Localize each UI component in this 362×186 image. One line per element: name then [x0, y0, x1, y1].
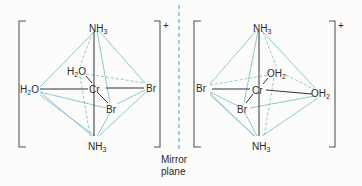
charge-right: +: [338, 20, 344, 31]
right-center-metal: Cr: [252, 85, 263, 96]
left-back-ligand: H2O: [67, 66, 86, 78]
left-front-ligand: Br: [106, 104, 117, 115]
charge-left: +: [163, 20, 169, 31]
right-left-ligand: Br: [196, 83, 207, 94]
mirror-label-line2: plane: [161, 166, 186, 177]
right-bracket-close: [329, 21, 335, 147]
mirror-label-line1: Mirror: [161, 154, 188, 165]
right-back-ligand: OH2: [267, 68, 286, 80]
left-center-metal: Cr: [89, 84, 100, 95]
left-right-ligand: Br: [146, 83, 157, 94]
enantiomer-diagram: + NH3 NH3 H2O Br H2O: [0, 0, 362, 186]
left-bottom-ligand: NH3: [88, 141, 106, 153]
right-bonds: [212, 32, 312, 136]
right-bottom-ligand: NH3: [252, 141, 270, 153]
left-left-ligand: H2O: [20, 84, 39, 96]
right-top-ligand: NH3: [253, 23, 271, 35]
left-complex: + NH3 NH3 H2O Br H2O: [19, 20, 169, 153]
right-complex: + NH3 NH3 Br OH2 OH2 Br: [194, 20, 344, 153]
right-right-ligand: OH2: [311, 88, 330, 100]
right-front-ligand: Br: [237, 104, 248, 115]
left-top-ligand: NH3: [89, 23, 107, 35]
